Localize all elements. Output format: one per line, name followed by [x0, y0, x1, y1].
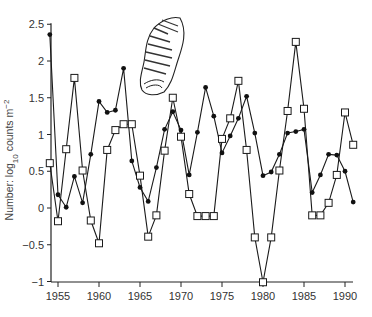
- open-square-marker: [79, 167, 86, 174]
- y-tick-label: 0.5: [29, 165, 44, 177]
- y-tick-label: −1: [31, 276, 44, 288]
- open-square-marker: [325, 199, 332, 206]
- x-tick-label: 1975: [210, 290, 234, 302]
- open-square-marker: [71, 74, 78, 81]
- filled-circle-marker: [302, 127, 307, 132]
- filled-circle-marker: [97, 99, 102, 104]
- open-square-marker: [284, 107, 291, 114]
- y-tick-label: 1: [38, 129, 44, 141]
- open-square-marker: [169, 94, 176, 101]
- filled-circle-marker: [252, 131, 257, 136]
- open-square-marker: [128, 121, 135, 128]
- filled-circle-marker: [203, 85, 208, 90]
- open-square-marker: [251, 234, 258, 241]
- x-tick-label: 1980: [251, 290, 275, 302]
- filled-circle-marker: [351, 200, 356, 205]
- x-tick-label: 1955: [46, 290, 70, 302]
- open-square-marker: [87, 217, 94, 224]
- open-square-marker: [96, 240, 103, 247]
- filled-circle-marker: [277, 152, 282, 157]
- open-square-marker: [186, 191, 193, 198]
- open-square-marker: [194, 213, 201, 220]
- filled-circle-marker: [64, 205, 69, 210]
- filled-circle-marker: [293, 129, 298, 134]
- open-square-marker: [301, 105, 308, 112]
- x-tick-label: 1985: [292, 290, 316, 302]
- filled-circle-marker: [138, 185, 143, 190]
- open-square-marker: [227, 115, 234, 122]
- open-square-marker: [317, 212, 324, 219]
- filled-circle-marker: [211, 114, 216, 119]
- filled-circle-marker: [187, 173, 192, 178]
- open-square-marker: [260, 279, 267, 286]
- open-square-marker: [153, 212, 160, 219]
- open-square-marker: [276, 167, 283, 174]
- open-square-marker: [219, 135, 226, 142]
- x-tick-label: 1960: [87, 290, 111, 302]
- open-square-marker: [137, 172, 144, 179]
- series-line-filled: [50, 35, 353, 208]
- filled-circle-marker: [269, 170, 274, 175]
- filled-circle-marker: [310, 190, 315, 195]
- filled-circle-marker: [72, 174, 77, 179]
- open-square-marker: [243, 146, 250, 153]
- open-square-marker: [202, 213, 209, 220]
- open-square-marker: [120, 121, 127, 128]
- open-square-marker: [112, 127, 119, 134]
- open-square-marker: [292, 38, 299, 45]
- open-square-marker: [104, 146, 111, 153]
- time-series-chart: −1−0.500.511.522.51955196019651970197519…: [0, 0, 372, 317]
- axes: −1−0.500.511.522.51955196019651970197519…: [22, 18, 357, 302]
- filled-circle-marker: [285, 131, 290, 136]
- filled-circle-marker: [195, 130, 200, 135]
- filled-circle-marker: [56, 192, 61, 197]
- filled-circle-marker: [220, 150, 225, 155]
- open-square-marker: [46, 160, 53, 167]
- filled-circle-marker: [261, 173, 266, 178]
- filled-circle-marker: [318, 173, 323, 178]
- x-tick-label: 1970: [169, 290, 193, 302]
- open-square-marker: [55, 218, 62, 225]
- y-tick-label: 2.5: [29, 18, 44, 30]
- y-axis-title: Number: log10 counts m−2: [2, 99, 20, 220]
- y-tick-label: 2: [38, 55, 44, 67]
- filled-circle-marker: [129, 159, 134, 164]
- filled-circle-marker: [146, 199, 151, 204]
- filled-circle-marker: [228, 134, 233, 139]
- filled-circle-marker: [88, 152, 93, 157]
- snail-shell-illustration: [140, 17, 184, 94]
- filled-circle-marker: [80, 200, 85, 205]
- filled-circle-marker: [334, 153, 339, 158]
- open-square-marker: [161, 147, 168, 154]
- filled-circle-marker: [179, 128, 184, 133]
- filled-circle-marker: [47, 32, 52, 37]
- filled-circle-marker: [162, 127, 167, 132]
- open-square-marker: [210, 213, 217, 220]
- y-tick-label: −0.5: [22, 239, 44, 251]
- filled-circle-marker: [154, 165, 159, 170]
- open-square-marker: [63, 146, 70, 153]
- filled-circle-marker: [105, 110, 110, 115]
- filled-circle-marker: [236, 116, 241, 121]
- filled-circle-marker: [343, 169, 348, 174]
- open-square-marker: [309, 212, 316, 219]
- open-square-marker: [145, 233, 152, 240]
- open-square-marker: [350, 141, 357, 148]
- filled-circle-marker: [121, 66, 126, 71]
- x-tick-label: 1965: [128, 290, 152, 302]
- open-square-marker: [178, 133, 185, 140]
- y-tick-label: 0: [38, 202, 44, 214]
- filled-circle-marker: [244, 94, 249, 99]
- open-square-marker: [268, 234, 275, 241]
- y-tick-label: 1.5: [29, 92, 44, 104]
- x-tick-label: 1990: [333, 290, 357, 302]
- open-square-marker: [333, 171, 340, 178]
- filled-circle-marker: [170, 109, 175, 114]
- open-square-marker: [235, 77, 242, 84]
- filled-circle-marker: [113, 108, 118, 113]
- filled-circle-marker: [326, 152, 331, 157]
- series-layer: [46, 32, 356, 286]
- open-square-marker: [342, 109, 349, 116]
